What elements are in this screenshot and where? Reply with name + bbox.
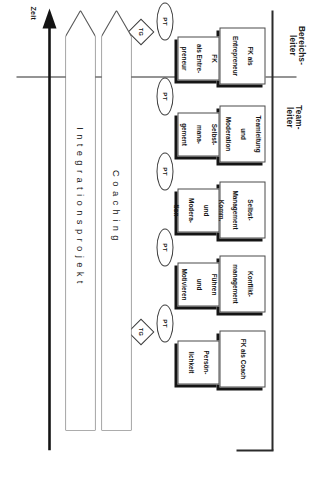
module-box-teamleitung-und-moderation[interactable]: Teamleitung und Moderation xyxy=(219,105,265,162)
module-label: tion xyxy=(172,197,180,224)
module-label: Entrepreneur xyxy=(231,34,239,76)
module-label: preneur xyxy=(179,42,187,73)
pt-label: PT xyxy=(161,319,168,328)
module-box-fk-als-coach[interactable]: FK als Coach xyxy=(219,330,265,387)
rotated-drawing-area: Team- leiter Bereichs- leiter FK als Coa… xyxy=(0,0,309,480)
time-axis-shape xyxy=(41,6,57,450)
tg-marker-1[interactable]: TG xyxy=(131,322,150,341)
module-label: Management xyxy=(231,189,239,230)
pt-label: PT xyxy=(161,92,168,101)
module-box-konfliktmanagement[interactable]: Konflikt- management xyxy=(219,255,265,312)
tg-label: TG xyxy=(131,322,150,341)
column-header-teamleiter: Team- leiter xyxy=(284,82,301,152)
module-label: management xyxy=(231,263,239,304)
module-box-fk-als-entrepreneur[interactable]: FK als Entrepreneur xyxy=(219,27,265,84)
module-label: als Entre- xyxy=(194,42,202,73)
module-box-selbst-management[interactable]: Selbst- Management xyxy=(219,181,265,238)
module-label: Selbst- xyxy=(209,122,217,147)
pt-marker-1[interactable]: PT xyxy=(156,304,173,342)
module-label: Moderation xyxy=(223,114,231,153)
module-label: Modera- xyxy=(187,197,195,224)
module-box-selbstmanagement[interactable]: Selbst- mana- gement xyxy=(177,112,219,156)
module-label: Führen xyxy=(209,267,217,301)
diagram-canvas: Team- leiter Bereichs- leiter FK als Coa… xyxy=(0,0,309,480)
tg-marker-2[interactable]: TG xyxy=(131,22,150,41)
module-label: Selbst- xyxy=(246,189,254,230)
module-label: lichkeit xyxy=(187,349,195,375)
module-label: und xyxy=(194,267,202,301)
pt-label: PT xyxy=(161,17,168,26)
module-label: Motivieren xyxy=(179,267,187,301)
column-header-bereichsleiter-line1: Bereichs- xyxy=(295,8,304,82)
frame-left-cap xyxy=(236,449,273,451)
time-axis-arrow xyxy=(41,6,57,450)
module-label: FK als xyxy=(246,34,254,76)
tg-label: TG xyxy=(131,22,150,41)
pt-label: PT xyxy=(161,167,168,176)
module-label: und xyxy=(202,197,210,224)
module-label: Persön- xyxy=(202,349,210,375)
module-label: Konflikt- xyxy=(246,263,254,304)
column-header-teamleiter-line1: Team- xyxy=(292,82,301,152)
column-header-teamleiter-line2: leiter xyxy=(284,82,293,152)
pt-marker-3[interactable]: PT xyxy=(156,152,173,190)
pt-marker-2[interactable]: PT xyxy=(156,228,173,266)
column-header-bereichsleiter-line2: leiter xyxy=(287,8,296,82)
pt-label: PT xyxy=(161,243,168,252)
module-label: mana- xyxy=(194,122,202,147)
module-box-fuehren-und-motivieren[interactable]: Führen und Motivieren xyxy=(177,262,219,306)
arrow-coaching-label: Coaching xyxy=(101,10,131,430)
module-label: gement xyxy=(179,122,187,147)
module-label: und xyxy=(238,114,246,153)
arrow-coaching: Coaching xyxy=(101,10,131,430)
column-header-bereichsleiter: Bereichs- leiter xyxy=(287,8,304,82)
module-label: Teamleitung xyxy=(253,114,261,153)
pt-marker-5[interactable]: PT xyxy=(156,2,173,40)
time-axis-label: Zeit xyxy=(28,6,37,20)
module-label: FK als Coach xyxy=(238,337,246,380)
pt-marker-4[interactable]: PT xyxy=(156,77,173,115)
module-box-fk-als-entrepreneur-tl[interactable]: FK als Entre- preneur xyxy=(177,36,219,80)
module-box-kommunikation-und-moderation[interactable]: Komm. und Modera- tion xyxy=(177,188,219,232)
arrow-integrationsprojekt-label: Integrationsprojekt xyxy=(65,10,95,430)
arrow-integrationsprojekt: Integrationsprojekt xyxy=(65,10,95,430)
module-label: FK xyxy=(209,42,217,73)
module-box-persoenlichkeit[interactable]: Persön- lichkeit xyxy=(177,340,219,384)
module-label: Komm. xyxy=(217,197,225,224)
